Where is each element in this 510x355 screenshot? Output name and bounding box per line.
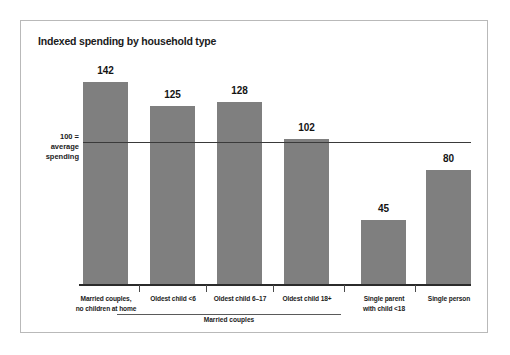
category-label-line-2: with child <18 [343,304,425,314]
bar-value-label: 102 [284,122,329,133]
category-label-single-person: Single person [408,294,490,304]
category-label-line-1: Single person [408,294,490,304]
bar-value-label: 142 [83,65,128,76]
bar-married-no-children [83,82,128,284]
chart-frame: Indexed spending by household type 100 =… [20,20,488,333]
axis-tick [415,285,416,292]
bar-value-label: 128 [217,85,262,96]
x-axis-baseline [79,284,471,286]
plot-area: 100 = average spending 142 125 128 102 4… [21,21,489,334]
y-axis-caption-line-1: 100 = [23,132,79,142]
axis-tick [206,285,207,292]
y-axis-caption-line-2: average [23,142,79,152]
bar-value-label: 80 [426,153,471,164]
category-label-oldest-child-18-plus: Oldest child 18+ [266,294,348,304]
category-label-line-1: Oldest child 18+ [266,294,348,304]
y-axis-caption: 100 = average spending [23,132,79,162]
axis-tick [273,285,274,292]
group-bracket-label: Married couples [117,316,341,323]
bar-value-label: 45 [361,203,406,214]
axis-tick [344,285,345,292]
reference-line-100 [83,142,471,143]
bar-oldest-child-6-17 [217,102,262,284]
category-label-line-2: no children at home [61,304,151,314]
bar-single-person [426,170,471,284]
group-bracket-line [117,314,341,315]
axis-tick [139,285,140,292]
y-axis-caption-line-3: spending [23,152,79,162]
bar-value-label: 125 [150,89,195,100]
bar-oldest-child-under-6 [150,106,195,284]
bar-oldest-child-18-plus [284,139,329,284]
bar-single-parent [361,220,406,284]
